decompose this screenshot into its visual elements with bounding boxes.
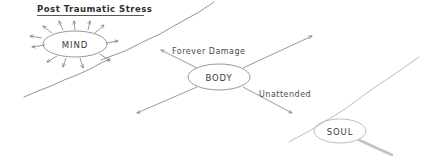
body-label: BODY xyxy=(205,73,232,83)
mind-arrow-nne xyxy=(88,21,90,30)
sketch-line-lower-diagonal xyxy=(24,59,110,97)
mind-arrow-nw xyxy=(43,26,52,33)
soul-node-group[interactable]: SOUL xyxy=(314,119,392,155)
mind-arrow-ne xyxy=(95,25,104,33)
mind-arrow-nnw xyxy=(59,21,63,30)
sketch-line-right-diagonal xyxy=(289,57,419,142)
soul-tail-stroke xyxy=(359,140,392,155)
soul-label: SOUL xyxy=(327,127,354,137)
diagram-title-group: Post Traumatic Stress xyxy=(37,4,152,16)
whiteboard-sketch-canvas: Post Traumatic Stress MIND xyxy=(0,0,439,164)
body-arrow-sw xyxy=(137,87,197,113)
mind-arrow-s xyxy=(80,58,83,68)
mind-arrow-n xyxy=(74,21,75,30)
mind-label: MIND xyxy=(62,40,88,50)
page-title: Post Traumatic Stress xyxy=(37,4,152,14)
body-arrow-ne xyxy=(243,36,312,68)
mind-arrow-sw xyxy=(47,56,57,62)
mind-arrow-ssw xyxy=(63,58,66,67)
edge-label-forever-damage: Forever Damage xyxy=(172,47,246,56)
mind-arrow-wnw xyxy=(30,36,42,38)
edge-label-unattended: Unattended xyxy=(259,90,311,99)
mind-arrow-e xyxy=(106,41,118,43)
